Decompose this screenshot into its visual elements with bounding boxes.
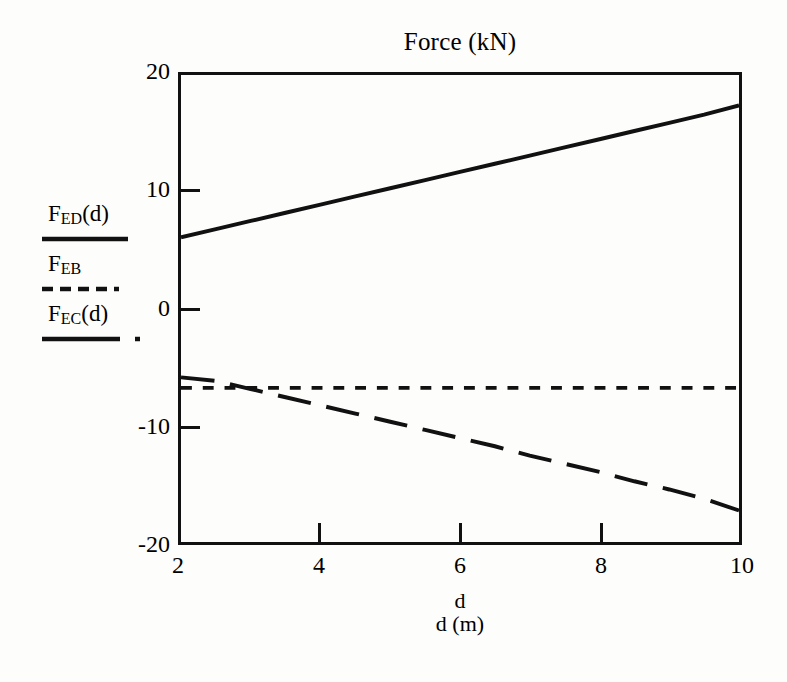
plot-series-svg	[181, 75, 739, 542]
legend-label-subscript: EC	[61, 310, 81, 327]
x-tick-mark	[600, 523, 603, 545]
y-tick-label: 10	[106, 177, 170, 201]
series-line	[181, 377, 739, 510]
x-tick-mark	[459, 523, 462, 545]
legend-swatch-wrap	[30, 282, 170, 298]
legend-entry-f-ec-d[interactable]: FEC(d)	[30, 300, 170, 348]
legend-label-suffix: (d)	[81, 301, 108, 326]
legend-label: FED(d)	[30, 200, 170, 232]
legend-entry-f-eb[interactable]: FEB	[30, 250, 170, 298]
legend-swatch-wrap	[30, 232, 170, 248]
y-tick-mark	[178, 308, 200, 311]
x-axis-caption: d (m)	[178, 612, 742, 635]
series-line	[181, 105, 739, 237]
chart-title: Force (kN)	[178, 28, 742, 56]
y-tick-mark	[178, 426, 200, 429]
x-tick-label: 4	[284, 552, 354, 578]
x-axis-caption-top: d	[178, 589, 742, 612]
y-tick-mark	[178, 189, 200, 192]
figure-canvas: Force (kN) 20100-10-20 246810 d d (m) FE…	[0, 0, 787, 682]
legend-swatch-dashdot	[42, 332, 150, 346]
x-tick-label: 6	[425, 552, 495, 578]
legend-label-main: F	[48, 301, 61, 326]
y-tick-label: 20	[106, 59, 170, 83]
legend-swatch-wrap	[30, 332, 170, 348]
y-tick-label: -10	[106, 414, 170, 438]
chart-legend: FED(d)FEBFEC(d)	[30, 200, 170, 350]
legend-label-main: F	[48, 251, 61, 276]
legend-label-subscript: ED	[61, 210, 82, 227]
legend-label-suffix: (d)	[82, 201, 109, 226]
x-tick-mark	[318, 523, 321, 545]
x-tick-label: 10	[707, 552, 777, 578]
legend-swatch-dashed	[42, 282, 150, 296]
legend-entry-f-ed-d[interactable]: FED(d)	[30, 200, 170, 248]
x-tick-label: 8	[566, 552, 636, 578]
legend-label: FEB	[30, 250, 170, 282]
x-tick-label: 2	[143, 552, 213, 578]
legend-label: FEC(d)	[30, 300, 170, 332]
legend-swatch-solid	[42, 232, 150, 246]
plot-area	[178, 72, 742, 545]
legend-label-main: F	[48, 201, 61, 226]
legend-label-subscript: EB	[61, 260, 81, 277]
